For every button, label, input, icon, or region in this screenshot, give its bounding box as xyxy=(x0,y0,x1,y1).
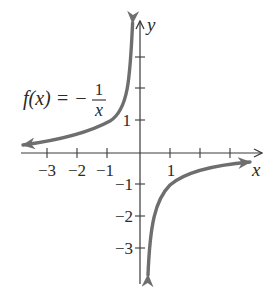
y-tick-label: −3 xyxy=(115,239,133,258)
function-label-lhs: f(x) = − xyxy=(23,87,88,110)
y-tick-label: 1 xyxy=(123,111,132,130)
function-label: f(x) = − 1 x xyxy=(23,80,106,120)
function-label-numerator: 1 xyxy=(95,80,104,99)
curve-left-branch xyxy=(23,23,133,145)
function-graph: x y −3 −2 −1 1 1 −1 −2 −3 f(x) = − 1 x xyxy=(0,0,278,289)
y-tick-label: −2 xyxy=(115,207,133,226)
function-label-denominator: x xyxy=(94,100,103,120)
x-tick-label: −3 xyxy=(38,161,56,180)
x-axis-label: x xyxy=(251,159,261,180)
y-tick-label: −1 xyxy=(115,175,133,194)
y-axis-label: y xyxy=(145,14,156,35)
curve-right-branch xyxy=(148,162,250,275)
x-tick-label: −2 xyxy=(68,161,86,180)
x-tick-label: −1 xyxy=(96,161,114,180)
x-tick-label: 1 xyxy=(167,161,176,180)
